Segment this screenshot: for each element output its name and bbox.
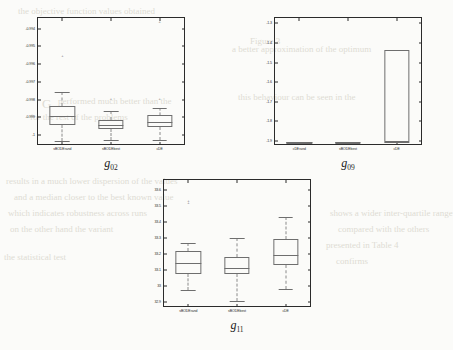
y-axis-tick-label: -0.997 — [25, 80, 35, 84]
y-axis-tick-label: -1.8 — [266, 119, 272, 123]
x-axis-tick-label: sBODEbest — [102, 147, 120, 151]
whisker-cap-upper — [230, 238, 245, 239]
y-axis-tick-mark — [38, 64, 41, 65]
whisker-cap-upper — [55, 92, 70, 93]
whisker-upper — [159, 108, 160, 115]
y-axis-tick-mark — [308, 254, 311, 255]
x-axis-tick-mark — [299, 18, 300, 21]
whisker-lower — [237, 274, 238, 301]
box-cDE — [273, 239, 298, 265]
y-axis-tick-mark — [164, 270, 167, 271]
median-line — [384, 142, 409, 143]
whisker-cap-upper — [181, 243, 196, 244]
y-axis-tick-mark — [419, 43, 422, 44]
y-axis-tick-label: -1.3 — [266, 21, 272, 25]
bleed-text-line: on the other hand the variant — [10, 224, 113, 234]
median-line — [98, 125, 123, 126]
y-axis-tick-mark — [164, 190, 167, 191]
outlier-marker: + — [187, 199, 189, 203]
y-axis-tick-mark — [38, 135, 41, 136]
whisker-cap-upper — [104, 111, 119, 112]
outlier-marker: + — [158, 97, 160, 101]
box-cDE — [384, 50, 409, 141]
figure-g09: -1.3-1.4-1.5-1.6-1.7-1.8-1.9cDErandsBODE… — [222, 0, 444, 180]
y-axis-tick-mark — [308, 270, 311, 271]
y-axis-tick-mark — [419, 82, 422, 83]
box-sBODEbest — [224, 257, 249, 274]
plot-area-g02: -0.994-0.995-0.996-0.997-0.998-0.999-1sB… — [38, 18, 184, 144]
x-axis-tick-mark — [237, 304, 238, 307]
median-line — [176, 263, 201, 264]
x-axis-tick-label: sBODErand — [179, 309, 197, 313]
outlier-marker: + — [61, 54, 63, 58]
y-axis-tick-label: -1.4 — [266, 41, 272, 45]
x-axis-tick-label: cDE — [393, 147, 399, 151]
median-line — [224, 268, 249, 269]
y-axis-tick-label: 33 — [157, 284, 161, 288]
y-axis-tick-label: 33.6 — [154, 188, 161, 192]
whisker-lower — [285, 265, 286, 289]
x-axis-tick-mark — [111, 142, 112, 145]
whisker-cap-lower — [181, 290, 196, 291]
y-axis-tick-mark — [38, 46, 41, 47]
outlier-marker: + — [110, 97, 112, 101]
y-axis-tick-mark — [419, 23, 422, 24]
figure-g11: 33.633.533.433.333.233.13332.9sBODErands… — [130, 175, 330, 350]
y-axis-tick-mark — [38, 99, 41, 100]
whisker-upper — [62, 92, 63, 106]
whisker-upper — [111, 111, 112, 120]
y-axis-tick-mark — [275, 82, 278, 83]
whisker-lower — [159, 127, 160, 139]
x-axis-tick-label: sBODErand — [53, 147, 71, 151]
outlier-marker: + — [158, 20, 160, 24]
y-axis-tick-label: -1.6 — [266, 80, 272, 84]
y-axis-tick-label: -1 — [32, 133, 35, 137]
x-axis-tick-mark — [285, 180, 286, 183]
x-axis-tick-mark — [348, 18, 349, 21]
y-axis-tick-mark — [182, 135, 185, 136]
whisker-cap-lower — [230, 301, 245, 302]
whisker-lower — [111, 129, 112, 140]
whisker-upper — [188, 243, 189, 251]
bleed-text-line: the statistical test — [4, 252, 66, 262]
plot-panel-g11: 33.633.533.433.333.233.13332.9sBODErands… — [163, 179, 311, 307]
whisker-cap-upper — [152, 108, 167, 109]
median-line — [335, 142, 360, 143]
x-axis-tick-mark — [188, 180, 189, 183]
x-axis-tick-mark — [159, 142, 160, 145]
y-axis-tick-mark — [182, 64, 185, 65]
whisker-cap-lower — [152, 140, 167, 141]
y-axis-tick-mark — [275, 121, 278, 122]
x-axis-tick-label: sBODEbest — [228, 309, 246, 313]
y-axis-tick-label: -0.998 — [25, 98, 35, 102]
y-axis-tick-mark — [275, 101, 278, 102]
x-axis-tick-mark — [111, 18, 112, 21]
y-axis-tick-label: -0.994 — [25, 27, 35, 31]
y-axis-tick-mark — [419, 121, 422, 122]
figure-g02: -0.994-0.995-0.996-0.997-0.998-0.999-1sB… — [0, 0, 222, 180]
y-axis-tick-mark — [38, 117, 41, 118]
plot-area-g09: -1.3-1.4-1.5-1.6-1.7-1.8-1.9cDErandsBODE… — [275, 18, 421, 144]
median-line — [273, 255, 298, 256]
y-axis-tick-mark — [164, 286, 167, 287]
x-axis-tick-mark — [188, 304, 189, 307]
y-axis-tick-mark — [308, 222, 311, 223]
y-axis-tick-mark — [182, 46, 185, 47]
median-line — [147, 122, 172, 123]
y-axis-tick-mark — [164, 254, 167, 255]
y-axis-tick-label: 33.3 — [154, 236, 161, 240]
y-axis-tick-label: -1.5 — [266, 61, 272, 65]
y-axis-tick-label: -0.996 — [25, 62, 35, 66]
y-axis-tick-mark — [275, 43, 278, 44]
bleed-text-line: which indicates robustness across runs — [8, 208, 147, 218]
y-axis-tick-mark — [308, 206, 311, 207]
caption-subscript: 11 — [236, 325, 243, 334]
x-axis-tick-mark — [237, 180, 238, 183]
figure-caption-g09: g09 — [341, 156, 355, 172]
plot-area-g11: 33.633.533.433.333.233.13332.9sBODErands… — [164, 180, 310, 306]
y-axis-tick-label: -0.995 — [25, 44, 35, 48]
bleed-text-line: shows a wider inter-quartile range — [330, 208, 453, 218]
y-axis-tick-label: -1.9 — [266, 139, 272, 143]
y-axis-tick-mark — [38, 28, 41, 29]
x-axis-tick-mark — [285, 304, 286, 307]
